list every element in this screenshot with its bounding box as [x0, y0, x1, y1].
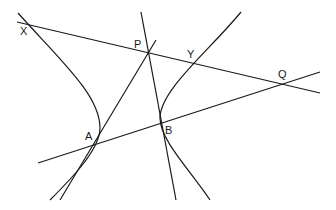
point-label-P: P	[134, 39, 141, 50]
line-XPYQ	[17, 22, 320, 93]
point-label-Q: Q	[278, 69, 287, 80]
point-label-A: A	[85, 131, 92, 142]
tangent-at-A	[60, 40, 156, 200]
right-hyperbola-branch	[160, 12, 241, 200]
diagram-svg	[0, 0, 336, 210]
geometry-diagram: X P Y Q A B	[0, 0, 336, 210]
point-label-B: B	[165, 125, 172, 136]
line-AQ	[38, 72, 320, 163]
point-label-Y: Y	[187, 49, 194, 60]
left-hyperbola-branch	[18, 13, 100, 200]
tangent-at-B	[141, 12, 176, 200]
point-label-X: X	[20, 26, 27, 37]
